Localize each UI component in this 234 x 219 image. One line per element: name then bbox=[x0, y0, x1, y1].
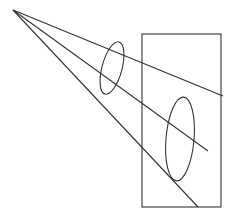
lower-ray bbox=[13, 10, 198, 207]
picture-plane-rect bbox=[142, 34, 221, 207]
ellipses-group bbox=[95, 39, 197, 182]
middle-ray bbox=[13, 10, 208, 151]
upper-ray bbox=[13, 10, 223, 96]
perspective-diagram bbox=[0, 0, 234, 219]
small-ellipse bbox=[95, 39, 128, 96]
diagram-svg bbox=[0, 0, 234, 219]
